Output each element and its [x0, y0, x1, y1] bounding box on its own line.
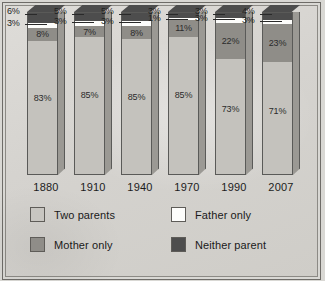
- callout-father-only: 3%: [54, 16, 67, 26]
- two-parents-swatch: [30, 207, 45, 222]
- callout-leader-line: [25, 24, 47, 25]
- bar-side-face: [199, 12, 206, 175]
- segment-two-parents: 73%: [216, 59, 245, 175]
- mother-only-swatch: [30, 237, 45, 252]
- segment-value-label: 71%: [263, 106, 292, 116]
- legend-item[interactable]: Father only: [171, 207, 251, 222]
- callout-neither-parent: 5%: [54, 6, 67, 16]
- stacked-bar[interactable]: 22%73%: [215, 12, 246, 175]
- segment-value-label: 8%: [122, 28, 151, 38]
- segment-mother-only: 8%: [28, 28, 57, 41]
- x-axis-tick-label: 1880: [27, 181, 65, 193]
- callout-leader-line: [25, 14, 37, 15]
- x-axis-tick-label: 1940: [121, 181, 159, 193]
- callout-leader-line: [213, 14, 225, 15]
- segment-value-label: 85%: [169, 90, 198, 100]
- chart-column: 8%85%1940: [121, 5, 167, 205]
- callout-father-only: 3%: [242, 15, 255, 25]
- callout-father-only: 1%: [148, 13, 161, 23]
- stacked-bar[interactable]: 8%83%: [27, 12, 58, 175]
- stacked-bar[interactable]: 7%85%: [74, 12, 105, 175]
- callout-leader-line: [260, 14, 272, 15]
- stacked-bar[interactable]: 11%85%: [168, 12, 199, 175]
- legend-label: Mother only: [54, 239, 113, 251]
- legend-item[interactable]: Mother only: [30, 237, 113, 252]
- x-axis-tick-label: 1970: [168, 181, 206, 193]
- legend-label: Father only: [195, 209, 251, 221]
- chart-figure: 8%83%18806%3%7%85%19105%3%8%85%19405%3%1…: [0, 0, 325, 291]
- legend-label: Neither parent: [195, 239, 266, 251]
- x-axis-tick-label: 2007: [262, 181, 300, 193]
- neither-parent-swatch: [171, 237, 186, 252]
- callout-leader-line: [260, 21, 282, 22]
- segment-two-parents: 85%: [169, 37, 198, 175]
- chart-column: 22%73%1990: [215, 5, 261, 205]
- segment-two-parents: 83%: [28, 41, 57, 175]
- segment-value-label: 23%: [263, 38, 292, 48]
- scan-artifact: [0, 281, 325, 291]
- callout-leader-line: [166, 14, 178, 15]
- chart-column: 8%83%1880: [27, 5, 73, 205]
- legend-item[interactable]: Neither parent: [171, 237, 266, 252]
- segment-two-parents: 85%: [122, 39, 151, 175]
- segment-two-parents: 71%: [263, 62, 292, 175]
- chart-column: 11%85%1970: [168, 5, 214, 205]
- chart-column: 7%85%1910: [74, 5, 120, 205]
- segment-mother-only: 22%: [216, 23, 245, 59]
- callout-leader-line: [213, 19, 235, 20]
- callout-leader-line: [166, 19, 188, 20]
- bar-side-face: [152, 12, 159, 175]
- segment-value-label: 8%: [28, 29, 57, 39]
- callout-leader-line: [119, 14, 131, 15]
- chart-legend: Two parentsFather onlyMother onlyNeither…: [14, 205, 299, 263]
- legend-label: Two parents: [54, 209, 115, 221]
- segment-two-parents: 85%: [75, 37, 104, 175]
- callout-leader-line: [72, 14, 84, 15]
- callout-leader-line: [72, 22, 94, 23]
- callout-neither-parent: 5%: [101, 6, 114, 16]
- bar-side-face: [105, 12, 112, 175]
- callout-father-only: 3%: [101, 16, 114, 26]
- bar-side-face: [293, 12, 300, 175]
- segment-value-label: 7%: [75, 27, 104, 37]
- callout-neither-parent: 6%: [7, 6, 20, 16]
- segment-value-label: 85%: [122, 92, 151, 102]
- legend-item[interactable]: Two parents: [30, 207, 115, 222]
- x-axis-tick-label: 1910: [74, 181, 112, 193]
- segment-mother-only: 8%: [122, 26, 151, 39]
- stacked-bar[interactable]: 8%85%: [121, 12, 152, 175]
- segment-mother-only: 7%: [75, 26, 104, 37]
- bar-top-cap: [262, 5, 300, 12]
- chart-column: 23%71%2007: [262, 5, 308, 205]
- segment-mother-only: 23%: [263, 24, 292, 61]
- callout-leader-line: [119, 22, 141, 23]
- callout-father-only: 3%: [7, 18, 20, 28]
- segment-value-label: 83%: [28, 93, 57, 103]
- callout-father-only: 3%: [195, 13, 208, 23]
- segment-mother-only: 11%: [169, 20, 198, 38]
- father-only-swatch: [171, 207, 186, 222]
- bar-side-face: [58, 12, 65, 175]
- segment-value-label: 73%: [216, 104, 245, 114]
- stacked-bar[interactable]: 23%71%: [262, 12, 293, 175]
- bar-side-face: [246, 12, 253, 175]
- segment-value-label: 22%: [216, 36, 245, 46]
- segment-value-label: 85%: [75, 90, 104, 100]
- segment-value-label: 11%: [169, 23, 198, 33]
- x-axis-tick-label: 1990: [215, 181, 253, 193]
